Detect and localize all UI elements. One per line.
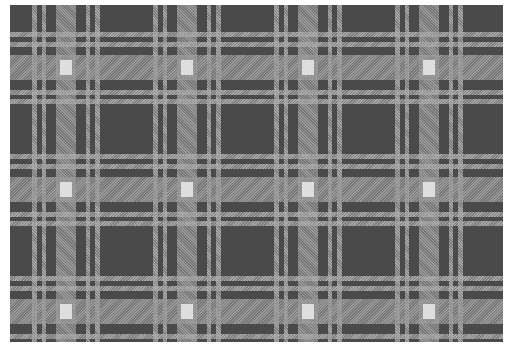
tartan-fabric-swatch [10, 5, 503, 342]
light-intersections [10, 5, 503, 342]
